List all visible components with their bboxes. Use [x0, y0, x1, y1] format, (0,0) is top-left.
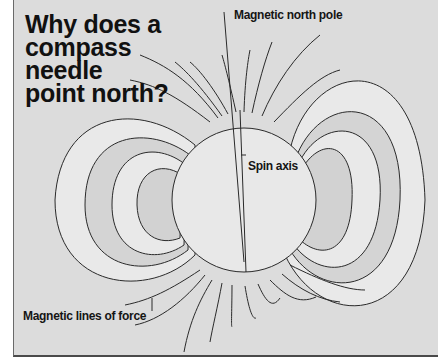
diagram-title: Why does a compass needle point north? — [25, 13, 169, 105]
title-line: point north? — [25, 82, 169, 105]
magnetic-lines-of-force-label: Magnetic lines of force — [23, 309, 146, 323]
magnetic-north-pole-label: Magnetic north pole — [234, 8, 342, 22]
earth-globe — [172, 128, 316, 272]
spin-axis-label: Spin axis — [248, 159, 298, 173]
